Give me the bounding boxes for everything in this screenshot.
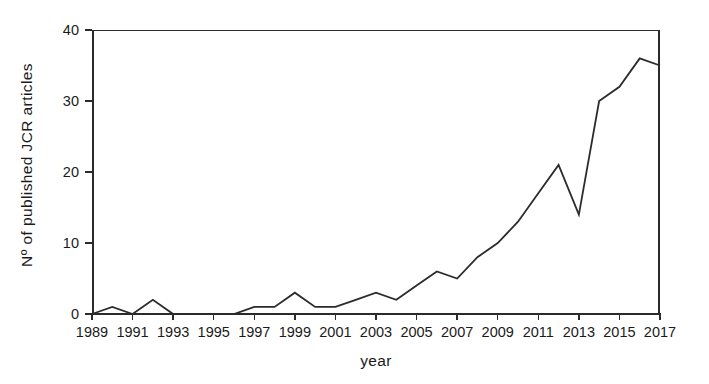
x-tick-label-2007: 2007 [441, 324, 473, 340]
x-tick-1997: 1997 [254, 313, 256, 320]
y-tick-10: 10 [85, 242, 92, 244]
x-tick-2001: 2001 [335, 313, 337, 320]
x-tick-2017: 2017 [659, 313, 661, 320]
x-tick-2011: 2011 [538, 313, 540, 320]
x-tick-label-1995: 1995 [198, 324, 230, 340]
x-tick-label-1991: 1991 [116, 324, 148, 340]
y-tick-20: 20 [85, 171, 92, 173]
x-tick-label-2001: 2001 [319, 324, 351, 340]
y-tick-30: 30 [85, 100, 92, 102]
x-tick-label-1997: 1997 [238, 324, 270, 340]
x-tick-2003: 2003 [375, 313, 377, 320]
data-series-line [92, 30, 660, 314]
y-tick-label-0: 0 [71, 306, 79, 322]
x-tick-1999: 1999 [294, 313, 296, 320]
x-tick-label-1993: 1993 [157, 324, 189, 340]
x-tick-2007: 2007 [456, 313, 458, 320]
x-tick-2013: 2013 [578, 313, 580, 320]
x-tick-label-1999: 1999 [279, 324, 311, 340]
y-tick-label-20: 20 [63, 164, 79, 180]
x-axis-title: year [92, 352, 660, 370]
y-tick-40: 40 [85, 29, 92, 31]
y-tick-label-30: 30 [63, 93, 79, 109]
y-axis-title: Nº of published JCR articles [14, 0, 40, 330]
x-tick-label-2015: 2015 [603, 324, 635, 340]
x-tick-2015: 2015 [619, 313, 621, 320]
x-tick-label-2011: 2011 [523, 324, 554, 340]
x-tick-2005: 2005 [416, 313, 418, 320]
x-tick-label-2003: 2003 [360, 324, 392, 340]
x-tick-label-2013: 2013 [563, 324, 595, 340]
x-tick-label-1989: 1989 [76, 324, 108, 340]
x-tick-label-2005: 2005 [400, 324, 432, 340]
x-tick-2009: 2009 [497, 313, 499, 320]
y-tick-label-10: 10 [63, 235, 79, 251]
x-tick-label-2009: 2009 [482, 324, 514, 340]
x-tick-label-2017: 2017 [644, 324, 676, 340]
y-tick-label-40: 40 [63, 22, 79, 38]
line-chart-figure: Nº of published JCR articles 010203040 1… [0, 0, 709, 384]
plot-area: 010203040 198919911993199519971999200120… [92, 30, 660, 314]
